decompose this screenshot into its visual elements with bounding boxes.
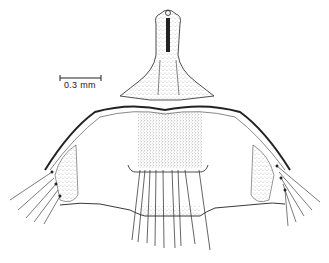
drawing-canvas [0, 0, 329, 263]
anatomical-illustration: 0.3 mm [0, 0, 329, 263]
central-plate [138, 112, 202, 168]
left-setae [10, 171, 61, 224]
scale-bar-label: 0.3 mm [64, 80, 96, 90]
right-lobe [251, 145, 274, 202]
right-setae [276, 165, 320, 226]
left-lobe [55, 145, 78, 202]
apical-stalk [120, 10, 214, 100]
